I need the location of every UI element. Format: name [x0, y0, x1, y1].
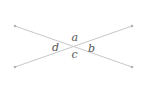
angle-label-b: b — [88, 42, 95, 55]
angle-label-d: d — [52, 41, 59, 54]
endpoint-bottom-right — [131, 66, 134, 69]
endpoint-top-left — [14, 25, 17, 28]
intersecting-lines-diagram: a b c d — [0, 0, 146, 94]
endpoint-top-right — [131, 25, 134, 28]
angle-label-c: c — [72, 48, 78, 61]
endpoint-bottom-left — [14, 66, 17, 69]
angle-label-a: a — [72, 31, 79, 44]
